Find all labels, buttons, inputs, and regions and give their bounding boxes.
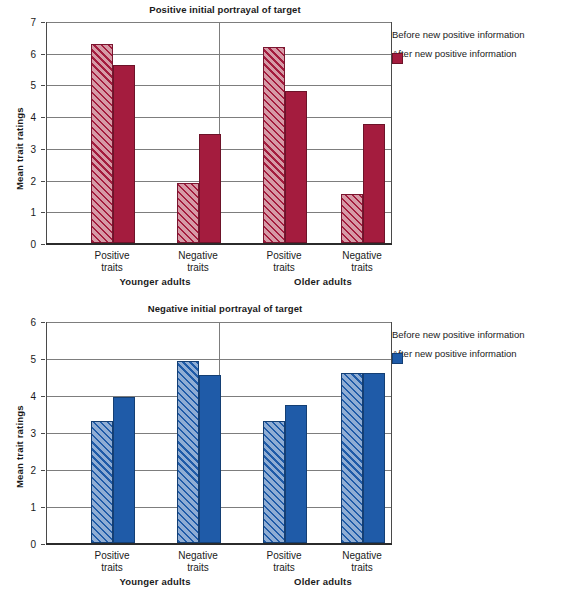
x-axis-category-line: traits (319, 262, 405, 274)
bar (91, 421, 113, 543)
x-axis-group-label: Older adults (248, 576, 398, 587)
x-axis-category-line: traits (69, 562, 155, 574)
bar (199, 134, 221, 243)
y-axis-tick-label: 4 (6, 391, 36, 402)
bar (363, 124, 385, 243)
x-axis-category-line: Negative (319, 550, 405, 562)
bar (285, 405, 307, 543)
x-axis-group-label: Younger adults (80, 276, 230, 287)
legend-swatch-after-icon (392, 53, 403, 64)
chart-title-top: Positive initial portrayal of target (60, 4, 390, 15)
bar (113, 397, 135, 543)
x-axis-group-label: Younger adults (80, 576, 230, 587)
y-axis-tick-label: 3 (6, 143, 36, 154)
y-axis-tick-label: 5 (6, 354, 36, 365)
bar (91, 44, 113, 243)
y-axis-tick-label: 4 (6, 112, 36, 123)
x-axis-group-label: Older adults (248, 276, 398, 287)
x-axis-category-label: Negativetraits (319, 250, 405, 273)
y-axis-tick-mark (41, 244, 45, 245)
bar (263, 47, 285, 243)
legend-bottom: Before new positive information After ne… (392, 326, 570, 364)
x-axis-category-label: Negativetraits (155, 250, 241, 273)
y-axis-tick-label: 6 (6, 48, 36, 59)
y-axis-tick-label: 5 (6, 80, 36, 91)
chart-title-bottom: Negative initial portrayal of target (60, 303, 390, 314)
y-axis-tick-label: 1 (6, 502, 36, 513)
x-axis-category-line: traits (69, 262, 155, 274)
bar (177, 361, 199, 543)
y-axis-tick-mark (41, 544, 45, 545)
bar (363, 373, 385, 543)
bar (177, 183, 199, 243)
y-axis-tick-mark (41, 396, 45, 397)
y-axis-tick-label: 2 (6, 465, 36, 476)
bar (285, 91, 307, 243)
y-axis-tick-label: 0 (6, 239, 36, 250)
x-axis-line-top (46, 243, 392, 245)
y-axis-tick-mark (41, 212, 45, 213)
y-axis-tick-mark (41, 507, 45, 508)
y-axis-label-bottom: Mean trait ratings (14, 405, 25, 488)
y-axis-tick-label: 2 (6, 175, 36, 186)
x-axis-category-line: Negative (155, 250, 241, 262)
y-axis-tick-label: 0 (6, 539, 36, 550)
x-axis-category-line: Positive (241, 550, 327, 562)
x-axis-category-label: Positivetraits (69, 550, 155, 573)
y-axis-tick-mark (41, 181, 45, 182)
y-axis-tick-mark (41, 149, 45, 150)
y-axis-tick-mark (41, 470, 45, 471)
y-axis-tick-mark (41, 22, 45, 23)
legend-top: Before new positive information After ne… (392, 26, 570, 64)
bar (113, 65, 135, 243)
legend-item-before: Before new positive information (392, 326, 570, 342)
bar (199, 375, 221, 543)
x-axis-line-bottom (46, 543, 392, 545)
x-axis-category-line: Positive (69, 550, 155, 562)
chart-panel-positive-portrayal: Positive initial portrayal of target Mea… (0, 0, 575, 292)
legend-label-before: Before new positive information (392, 329, 525, 340)
x-axis-category-label: Positivetraits (241, 250, 327, 273)
x-axis-category-line: traits (155, 262, 241, 274)
legend-label-after: After new positive information (392, 348, 517, 359)
x-axis-category-line: Positive (241, 250, 327, 262)
x-axis-category-line: Negative (319, 250, 405, 262)
bar (341, 194, 363, 243)
y-axis-tick-mark (41, 322, 45, 323)
y-axis-tick-mark (41, 433, 45, 434)
y-axis-tick-mark (41, 359, 45, 360)
y-axis-tick-label: 6 (6, 317, 36, 328)
legend-item-after: After new positive information (392, 45, 570, 61)
y-axis-tick-mark (41, 85, 45, 86)
legend-label-before: Before new positive information (392, 29, 525, 40)
x-axis-category-label: Positivetraits (241, 550, 327, 573)
bar (263, 421, 285, 543)
x-axis-category-line: traits (319, 562, 405, 574)
y-axis-tick-mark (41, 117, 45, 118)
y-axis-tick-label: 7 (6, 17, 36, 28)
legend-item-after: After new positive information (392, 345, 570, 361)
plot-area-top (46, 22, 392, 244)
y-axis-tick-mark (41, 54, 45, 55)
bar (341, 373, 363, 543)
x-axis-category-label: Positivetraits (69, 250, 155, 273)
legend-item-before: Before new positive information (392, 26, 570, 42)
y-axis-tick-label: 1 (6, 207, 36, 218)
legend-label-after: After new positive information (392, 48, 517, 59)
x-axis-category-line: traits (155, 562, 241, 574)
x-axis-category-line: Negative (155, 550, 241, 562)
plot-area-bottom (46, 322, 392, 544)
x-axis-category-line: traits (241, 562, 327, 574)
legend-swatch-after-icon (392, 353, 403, 364)
chart-panel-negative-portrayal: Negative initial portrayal of target Mea… (0, 296, 575, 590)
x-axis-category-line: traits (241, 262, 327, 274)
x-axis-category-line: Positive (69, 250, 155, 262)
y-axis-tick-label: 3 (6, 428, 36, 439)
x-axis-category-label: Negativetraits (155, 550, 241, 573)
x-axis-category-label: Negativetraits (319, 550, 405, 573)
